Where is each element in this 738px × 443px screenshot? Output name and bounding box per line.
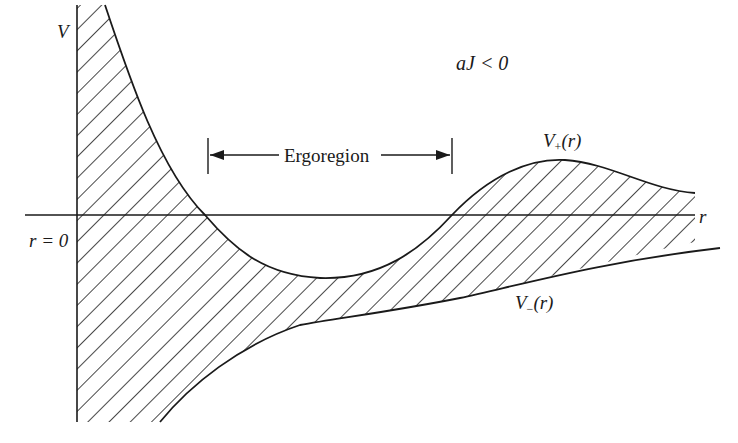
- v-plus-sub: +: [555, 140, 562, 154]
- ergoregion-label: Ergoregion: [284, 146, 369, 165]
- y-axis-label: V: [57, 22, 69, 41]
- x-axis-label: r: [699, 207, 706, 226]
- v-minus-main: V: [515, 292, 527, 313]
- v-minus-label: V−(r): [515, 293, 553, 312]
- v-minus-sub: −: [527, 302, 534, 316]
- condition-label: aJ < 0: [456, 53, 508, 73]
- v-minus-arg: (r): [533, 292, 553, 313]
- hatched-region: [77, 5, 720, 422]
- effective-potential-diagram: [0, 0, 738, 443]
- origin-label: r = 0: [29, 231, 68, 250]
- v-plus-arg: (r): [561, 130, 581, 151]
- v-plus-label: V+(r): [543, 131, 581, 150]
- v-plus-main: V: [543, 130, 555, 151]
